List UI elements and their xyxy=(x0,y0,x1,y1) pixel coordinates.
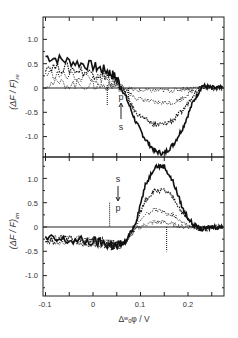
top-annotation: p s xyxy=(118,92,123,132)
top-y-axis-label: (ΔF / F)re xyxy=(8,73,20,109)
svg-text:(ΔF / F)im: (ΔF / F)im xyxy=(8,213,20,250)
series-line-s xyxy=(46,55,223,155)
top-series xyxy=(46,55,223,155)
y-axis-label-sub: im xyxy=(14,213,20,219)
y-tick-label: -1.0 xyxy=(25,132,38,141)
y-axis-label-sub: re xyxy=(14,73,20,79)
y-tick-label: -0.5 xyxy=(25,247,38,256)
y-tick-label: -1.0 xyxy=(25,271,38,280)
y-tick-label: 0.5 xyxy=(28,199,38,208)
y-axis-label-main: (ΔF / F) xyxy=(8,219,18,249)
series-line-s xyxy=(46,164,223,249)
x-tick-labels: -0.1 0 0.1 0.2 xyxy=(39,300,194,309)
y-tick-label: -0.5 xyxy=(25,108,38,117)
series-line-s-mid xyxy=(46,188,223,249)
top-y-tick-labels: 1.0 0.5 0 -0.5 -1.0 xyxy=(25,35,38,141)
annotation-p: p xyxy=(115,203,120,213)
series-line-p-mid xyxy=(46,208,223,250)
figure: 1.0 0.5 0 -0.5 -1.0 1.0 0.5 0 -0.5 -1.0 … xyxy=(0,0,238,338)
bottom-annotation: s p xyxy=(115,174,120,213)
annotation-s: s xyxy=(116,174,121,184)
x-tick-label: 0 xyxy=(91,300,95,309)
y-tick-label: 1.0 xyxy=(28,175,38,184)
y-tick-label: 0 xyxy=(34,84,38,93)
bottom-y-tick-labels: 1.0 0.5 0 -0.5 -1.0 xyxy=(25,175,38,280)
y-tick-label: 0.5 xyxy=(28,60,38,69)
x-tick-label: 0.2 xyxy=(183,300,193,309)
bottom-series xyxy=(46,164,223,251)
bottom-y-axis-label: (ΔF / F)im xyxy=(8,213,20,250)
x-axis-label: Δʷₒφ / V xyxy=(118,314,150,324)
y-tick-label: 1.0 xyxy=(28,35,38,44)
svg-text:(ΔF / F)re: (ΔF / F)re xyxy=(8,73,20,109)
y-tick-label: 0 xyxy=(34,223,38,232)
x-tick-label: 0.1 xyxy=(135,300,145,309)
y-axis-label-main: (ΔF / F) xyxy=(8,79,18,109)
annotation-p: p xyxy=(118,92,123,102)
annotation-s: s xyxy=(119,122,124,132)
x-tick-label: -0.1 xyxy=(39,300,52,309)
